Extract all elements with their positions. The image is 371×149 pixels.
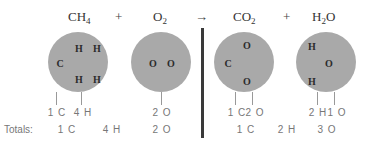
molecule-h2o: H O H [296,32,356,92]
atom-o: O [167,58,175,69]
formula-co2: CO2 [233,9,256,25]
formula-subscript: 4 [86,16,91,26]
tick-line [252,92,253,105]
formula-h2o: H2O [312,9,335,25]
tick-line [81,92,82,105]
count-label: 2 H [309,107,328,118]
atom-c: C [56,58,63,69]
formula-main: CO [233,9,251,24]
formula-o2: O2 [153,9,167,25]
atom-h: H [93,43,101,54]
atom-h: H [308,41,316,52]
count-label: 1 C [48,107,67,118]
atom-o: O [243,40,251,51]
count-label: 4 H [74,107,93,118]
plus-sign: + [115,9,122,25]
molecule-ch4: C H H H H [48,32,108,92]
molecule-o2: O O [131,32,191,92]
formula-ch4: CH4 [68,9,91,25]
formula-tail: O [326,9,335,24]
atom-o: O [243,76,251,87]
formula-subscript: 2 [162,16,167,26]
atom-o: O [325,58,333,69]
count-label: 1 C [228,107,247,118]
reaction-divider [201,28,204,138]
total-reactant-c: 1 C [58,124,77,135]
atom-c: C [224,58,231,69]
total-product-h: 2 H [278,124,297,135]
tick-line [161,92,162,105]
count-label: 2 O [245,107,264,118]
molecule-co2: C O O [214,32,274,92]
atom-o: O [149,58,157,69]
totals-label: Totals: [4,124,33,135]
formula-main: H [312,9,321,24]
formula-subscript: 2 [251,16,256,26]
total-product-o: 3 O [317,124,336,135]
atom-h: H [75,74,83,85]
plus-sign: + [283,9,290,25]
tick-line [317,92,318,105]
atom-h: H [75,43,83,54]
atom-h: H [93,74,101,85]
formula-main: CH [68,9,86,24]
formula-main: O [153,9,162,24]
total-product-c: 1 C [237,124,256,135]
total-reactant-o: 2 O [152,124,171,135]
tick-line [334,92,335,105]
count-label: 2 O [152,107,171,118]
reaction-arrow: → [195,9,208,25]
atom-h: H [308,76,316,87]
tick-line [235,92,236,105]
tick-line [56,92,57,105]
count-label: 1 O [327,107,346,118]
total-reactant-h: 4 H [103,124,122,135]
